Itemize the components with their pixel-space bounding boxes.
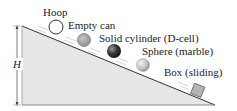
label-solid-cylinder: Solid cylinder (D-cell) [99, 32, 199, 45]
incline-diagram: H Hoop Empty can Solid cylinder (D-cell)… [0, 0, 237, 111]
empty-can-object [78, 34, 91, 47]
solid-cylinder-object [107, 44, 121, 58]
label-empty-can: Empty can [68, 19, 116, 31]
label-box: Box (sliding) [164, 66, 223, 79]
sphere-object [137, 59, 150, 72]
height-label: H [12, 58, 22, 70]
label-hoop: Hoop [43, 6, 68, 18]
label-sphere: Sphere (marble) [142, 45, 213, 58]
hoop-object [49, 20, 63, 34]
